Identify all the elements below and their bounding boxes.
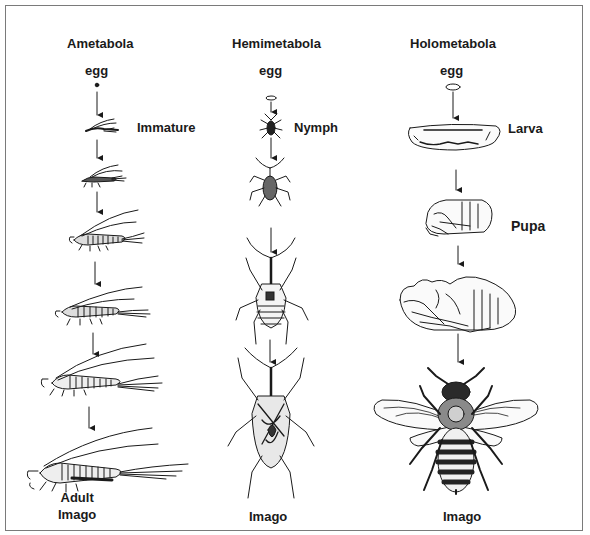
silverfish-instar-icon — [69, 210, 144, 251]
pharate-adult-icon — [400, 277, 516, 332]
silverfish-instar-icon — [55, 287, 150, 325]
silverfish-instar-icon — [82, 165, 126, 187]
ametabola-column — [27, 83, 188, 492]
pupa-icon — [426, 200, 492, 236]
nymph-3-icon — [236, 238, 308, 344]
egg-icon — [266, 96, 276, 100]
honeybee-adult-icon — [374, 368, 538, 494]
nymph-2-icon — [250, 158, 290, 206]
nymph-1-icon — [260, 114, 282, 138]
silverfish-instar-icon — [41, 344, 162, 396]
egg-icon — [446, 84, 460, 90]
larva-icon — [408, 124, 500, 150]
hemimetabola-column — [228, 96, 314, 498]
true-bug-adult-icon — [228, 348, 314, 498]
silverfish-adult-icon — [27, 428, 188, 492]
holometabola-column — [374, 84, 538, 494]
egg-icon — [95, 83, 99, 87]
illustrations — [0, 0, 590, 535]
silverfish-immature-icon — [86, 119, 118, 132]
